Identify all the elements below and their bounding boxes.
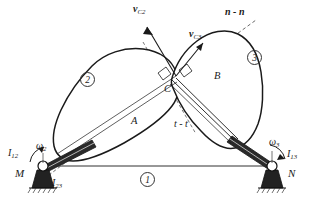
velocity-c3-label: vC3 [189,29,201,41]
instant-centre-12-label: I12 [8,148,18,160]
instant-centre-12-subscript: 12 [11,152,18,159]
normal-line-label: n - n [225,7,244,17]
velocity-c2-subscript: C2 [137,8,145,15]
link-number-cam-two: 2 [80,72,95,87]
kinematics-figure: vC2 vC3 n - n t - t C A B M N ω2 ω3 I12 … [0,0,312,199]
cam-body-b-outline [171,31,262,148]
body-a-label: A [131,116,137,127]
instant-centre-23-subscript: 23 [55,182,62,189]
omega-three-subscript: 3 [276,141,279,148]
contact-point-label: C [164,84,171,95]
omega-three-label: ω3 [269,137,279,149]
omega-two-label: ω2 [36,141,46,153]
link-three-arm [227,136,272,169]
body-b-label: B [214,71,220,82]
instant-centre-23-label: I23 [52,178,62,190]
instant-centre-13-label: I13 [287,149,297,161]
link-number-ground: 1 [140,172,155,187]
tangent-line-label: t - t [174,119,188,129]
velocity-c3-subscript: C3 [193,33,201,40]
omega-two-subscript: 2 [43,145,46,152]
instant-centre-13-subscript: 13 [290,153,297,160]
pivot-right-label: N [288,168,295,179]
velocity-c2-label: vC2 [133,4,145,16]
link-number-cam-three: 3 [247,50,262,65]
pivot-left-label: M [15,168,24,179]
omega-three-base: ω [269,136,276,147]
omega-two-base: ω [36,140,43,151]
diagram-canvas [0,0,312,199]
